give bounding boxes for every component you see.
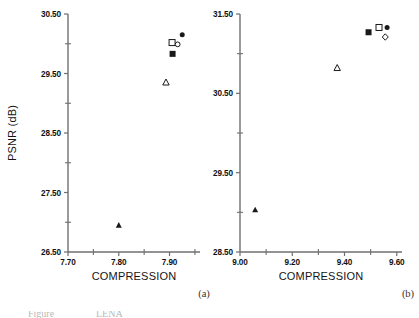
marker-filled-circle <box>385 25 390 30</box>
marker-open-square <box>376 24 382 30</box>
x-tick-label: 9.00 <box>232 258 248 267</box>
marker-filled-circle <box>180 32 185 37</box>
marker-open-triangle <box>334 65 340 71</box>
y-tick-label: 30.50 <box>41 10 62 19</box>
x-axis-title: COMPRESSION <box>92 270 177 282</box>
y-tick-label: 29.50 <box>41 70 62 79</box>
marker-filled-square <box>170 51 176 57</box>
marker-filled-triangle <box>116 222 122 228</box>
x-tick-label: 9.40 <box>337 258 353 267</box>
y-tick-label: 28.50 <box>41 129 62 138</box>
panel-b-caption: (b) <box>204 288 419 299</box>
y-tick-label: 31.50 <box>213 10 234 19</box>
x-tick-label: 7.90 <box>162 258 178 267</box>
x-tick-label: 9.20 <box>284 258 300 267</box>
scatter-plot-a: 26.5027.5028.5029.5030.507.707.807.90COM… <box>0 0 204 300</box>
marker-open-diamond <box>382 34 388 40</box>
y-tick-label: 29.50 <box>213 169 234 178</box>
marker-open-square <box>169 40 175 46</box>
marker-open-circle <box>175 42 180 47</box>
scatter-plot-b: 28.5029.5030.5031.509.009.209.409.60COMP… <box>204 0 408 300</box>
x-tick-label: 7.80 <box>111 258 127 267</box>
cut-off-caption-word-1: Figure <box>28 311 54 318</box>
x-tick-label: 7.70 <box>60 258 76 267</box>
chart-panel-b: 28.5029.5030.5031.509.009.209.409.60COMP… <box>204 0 408 300</box>
data-point-group <box>252 24 389 212</box>
y-tick-label: 27.50 <box>41 189 62 198</box>
cut-off-caption-word-2: LENA <box>96 311 123 318</box>
marker-filled-triangle <box>252 207 258 213</box>
y-tick-label: 30.50 <box>213 89 234 98</box>
marker-filled-square <box>366 29 372 35</box>
x-tick-label: 9.60 <box>389 258 405 267</box>
data-point-group <box>116 32 185 227</box>
x-axis-title: COMPRESSION <box>279 270 364 282</box>
chart-panel-a: 26.5027.5028.5029.5030.507.707.807.90COM… <box>0 0 204 300</box>
y-axis-title: PSNR (dB) <box>6 105 18 161</box>
cut-off-figure-caption: Figure LENA <box>0 311 408 318</box>
marker-open-triangle <box>163 79 169 85</box>
y-tick-label: 28.50 <box>213 248 234 257</box>
y-tick-label: 26.50 <box>41 248 62 257</box>
